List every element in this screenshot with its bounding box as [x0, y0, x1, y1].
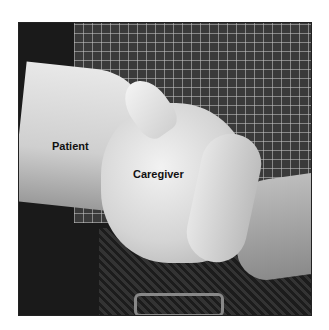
belt-buckle [134, 293, 224, 316]
patient-label: Patient [52, 140, 89, 152]
caregiver-label: Caregiver [133, 168, 184, 180]
